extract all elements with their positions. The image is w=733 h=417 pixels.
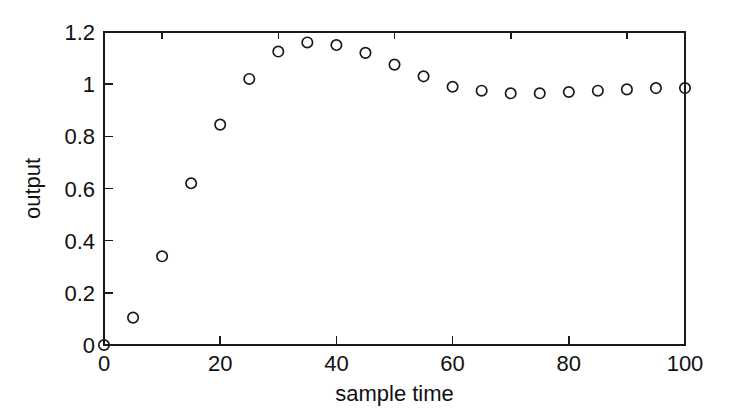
data-point [215, 119, 225, 129]
x-tick-label: 80 [557, 351, 581, 376]
data-point [535, 88, 545, 98]
x-tick-label: 20 [208, 351, 232, 376]
x-axis-title: sample time [335, 381, 454, 406]
y-tick-label: 1 [83, 72, 95, 97]
data-point [418, 71, 428, 81]
data-point [622, 84, 632, 94]
data-point [447, 82, 457, 92]
data-point [331, 40, 341, 50]
data-series-output [99, 37, 690, 350]
y-tick-label: 0.4 [64, 229, 95, 254]
x-tick-label: 100 [667, 351, 704, 376]
data-point [302, 37, 312, 47]
data-point [506, 88, 516, 98]
data-point [651, 83, 661, 93]
y-axis: 00.20.40.60.811.2 [64, 20, 113, 358]
x-tick-label: 60 [440, 351, 464, 376]
data-point [476, 85, 486, 95]
data-point [128, 312, 138, 322]
data-point [389, 59, 399, 69]
data-point [186, 178, 196, 188]
data-point [244, 74, 254, 84]
x-axis: 020406080100 [98, 32, 703, 376]
data-point [157, 251, 167, 261]
y-tick-label: 0 [83, 333, 95, 358]
y-tick-label: 1.2 [64, 20, 95, 45]
x-tick-label: 0 [98, 351, 110, 376]
y-tick-label: 0.8 [64, 124, 95, 149]
scatter-plot: 02040608010000.20.40.60.811.2sample time… [0, 0, 733, 417]
data-point [360, 48, 370, 58]
y-tick-label: 0.2 [64, 281, 95, 306]
figure-container: 02040608010000.20.40.60.811.2sample time… [0, 0, 733, 417]
data-point [593, 85, 603, 95]
y-axis-title: output [20, 158, 45, 219]
data-point [273, 46, 283, 56]
x-tick-label: 40 [324, 351, 348, 376]
data-point [564, 87, 574, 97]
y-tick-label: 0.6 [64, 177, 95, 202]
